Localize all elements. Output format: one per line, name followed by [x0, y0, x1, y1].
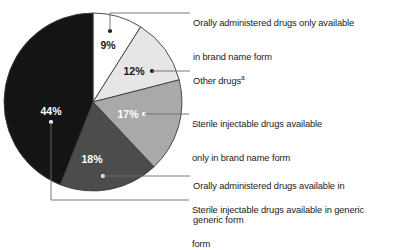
slice-value-sterile-generic: 44%	[40, 105, 62, 117]
callout-label-oral-brand-only: Orally administered drugs only available…	[193, 7, 391, 63]
callout-line-1: Other drugs	[193, 76, 241, 86]
slice-value-other-drugs: 12%	[123, 65, 145, 77]
callout-line-2: form	[192, 239, 210, 249]
callout-line-1: Orally administered drugs available in	[193, 181, 345, 191]
callout-line-1: Sterile injectable drugs available in ge…	[192, 205, 364, 215]
footnote-marker: a	[241, 74, 245, 81]
slice-value-sterile-brand-only: 17%	[117, 108, 139, 120]
callout-line-2: in brand name form	[193, 52, 272, 62]
callout-label-sterile-generic: Sterile injectable drugs available in ge…	[192, 194, 395, 250]
callout-label-sterile-brand-only: Sterile injectable drugs available only …	[192, 108, 390, 164]
callout-line-1: Sterile injectable drugs available	[192, 119, 322, 129]
callout-label-other-drugs: Other drugsa	[193, 65, 391, 87]
callout-line-2: only in brand name form	[192, 153, 290, 163]
callout-line-1: Orally administered drugs only available	[193, 18, 354, 28]
slice-value-oral-generic: 18%	[81, 153, 103, 165]
slice-value-oral-brand-only: 9%	[100, 39, 116, 51]
